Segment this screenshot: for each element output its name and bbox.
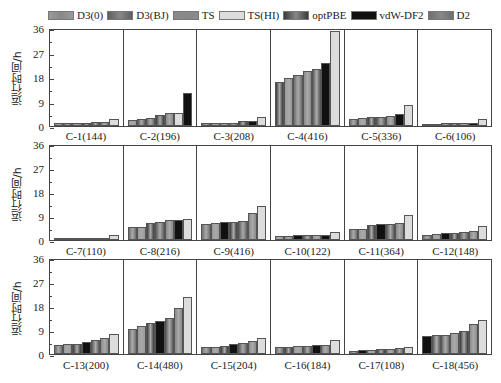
bar-group (275, 260, 340, 354)
bar (165, 113, 174, 126)
panel-label: C-8(216) (123, 245, 197, 257)
bar (275, 236, 284, 240)
bar (82, 238, 91, 240)
bar-group (349, 260, 414, 354)
y-tick-label: 18 (20, 188, 44, 199)
bar (137, 119, 146, 126)
legend-swatch (428, 11, 454, 20)
bar (100, 122, 109, 126)
bar (376, 117, 385, 126)
legend-item: vdW-DF2 (351, 9, 424, 21)
bar-group (349, 30, 414, 126)
y-tick-label: 0 (20, 350, 44, 361)
panel-C-16(184) (271, 260, 345, 354)
bar (367, 117, 376, 126)
plot-area (49, 259, 492, 355)
bar (450, 123, 459, 126)
bar (238, 343, 247, 354)
bar (137, 227, 146, 240)
bar-group (128, 146, 193, 240)
bar (386, 349, 395, 354)
legend-label: TS (202, 9, 215, 21)
legend-swatch (351, 11, 377, 20)
bar-group (54, 30, 119, 126)
y-tick-label: 36 (20, 24, 44, 35)
bar-group (201, 260, 266, 354)
panel-C-14(480) (124, 260, 198, 354)
panel-C-18(456) (418, 260, 491, 354)
bar (91, 340, 100, 354)
bar (349, 229, 358, 240)
bar (257, 338, 266, 354)
plot-area (49, 29, 492, 127)
legend-swatch (219, 11, 245, 20)
y-tick-label: 27 (20, 164, 44, 175)
bar (358, 350, 367, 354)
bar (220, 123, 229, 126)
panel-C-12(148) (418, 146, 491, 240)
bar (54, 123, 63, 126)
bar-group (128, 260, 193, 354)
bar-group (54, 260, 119, 354)
panel-C-13(200) (50, 260, 124, 354)
bar (358, 118, 367, 126)
legend-label: TS(HI) (248, 9, 280, 21)
panel-C-3(208) (197, 30, 271, 126)
bar (321, 345, 330, 354)
legend-swatch (48, 11, 74, 20)
legend-swatch (107, 11, 133, 20)
bar (211, 223, 220, 240)
bar-group (275, 146, 340, 240)
bar (174, 308, 183, 354)
bar (146, 223, 155, 240)
legend-item: optPBE (283, 9, 346, 21)
bar (478, 119, 487, 126)
panel-label: C-11(364) (344, 245, 418, 257)
bar (293, 235, 302, 240)
bar (432, 335, 441, 354)
bar (469, 324, 478, 354)
bar-group (422, 30, 487, 126)
legend-label: vdW-DF2 (380, 9, 424, 21)
bar (257, 206, 266, 240)
legend-item: D3(0) (48, 9, 103, 21)
panel-label: C-17(108) (344, 359, 418, 371)
bar (174, 220, 183, 240)
bar (284, 78, 293, 126)
bar (395, 114, 404, 126)
bar (146, 118, 155, 126)
y-tick-label: 9 (20, 326, 44, 337)
bar (469, 231, 478, 240)
panel-label: C-12(148) (418, 245, 492, 257)
bar (63, 238, 72, 240)
bar (358, 229, 367, 240)
bar (330, 232, 339, 240)
bar (109, 334, 118, 354)
bar (146, 323, 155, 354)
bar (422, 124, 431, 126)
bar (275, 82, 284, 126)
y-tick-mark (50, 242, 54, 243)
bar (54, 345, 63, 354)
panel-label: C-10(122) (271, 245, 345, 257)
bar (459, 232, 468, 240)
bar (165, 318, 174, 354)
bar-group (349, 146, 414, 240)
bar (248, 121, 257, 126)
bar (395, 348, 404, 354)
legend-label: optPBE (312, 9, 346, 21)
legend-swatch (283, 11, 309, 20)
bar (183, 219, 192, 240)
y-tick-label: 9 (20, 212, 44, 223)
bar (293, 75, 302, 126)
panel-label: C-5(336) (344, 130, 418, 142)
bar (349, 119, 358, 126)
bar (321, 235, 330, 240)
panel-C-15(204) (197, 260, 271, 354)
y-tick-mark (50, 128, 54, 129)
bar (386, 224, 395, 240)
bar (109, 119, 118, 126)
y-tick-label: 36 (20, 254, 44, 265)
bar (248, 213, 257, 240)
bar (155, 115, 164, 126)
